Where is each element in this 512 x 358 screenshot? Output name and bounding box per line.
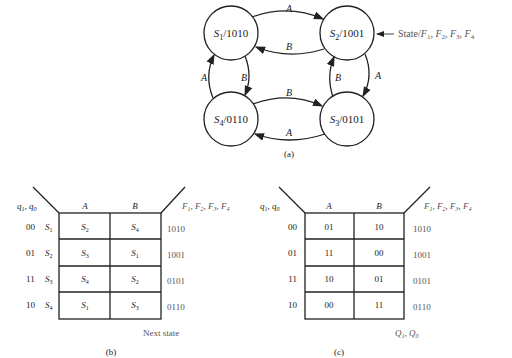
- table-c-row-header: q1, q0: [260, 201, 280, 212]
- transition-label: B: [241, 72, 247, 83]
- transition-label: A: [285, 3, 293, 14]
- transition-label: A: [285, 127, 293, 138]
- svg-text:S1: S1: [45, 222, 53, 233]
- table-row: 00 01 10 1010: [288, 222, 432, 234]
- state-annotation: State/F1, F2, F3, F4: [398, 28, 475, 41]
- table-c-output-header: F1, F2, F3, F4: [423, 201, 472, 212]
- svg-text:S4: S4: [131, 222, 139, 233]
- caption-a: (a): [284, 149, 294, 159]
- svg-text:01: 01: [288, 248, 297, 258]
- transition-label: B: [286, 41, 292, 52]
- table-b-footer: Next state: [143, 328, 179, 338]
- caption-c: (c): [334, 347, 344, 357]
- table-c-col-a: A: [325, 201, 332, 211]
- svg-text:11: 11: [325, 248, 334, 258]
- table-row: 11 10 01 0101: [288, 274, 431, 286]
- svg-text:10: 10: [288, 300, 298, 310]
- svg-text:01: 01: [375, 274, 384, 284]
- svg-text:00: 00: [375, 248, 385, 258]
- table-b-col-a: A: [81, 201, 88, 211]
- transition-label: A: [374, 70, 382, 81]
- svg-text:10: 10: [375, 222, 385, 232]
- svg-text:S1: S1: [81, 300, 89, 311]
- transition-s4-s1: [209, 55, 214, 98]
- svg-text:S3: S3: [131, 300, 139, 311]
- svg-text:1001: 1001: [167, 250, 185, 260]
- transition-s2-s3: [363, 54, 369, 96]
- table-b-output-header: F1, F2, F3, F4: [181, 201, 230, 212]
- table-c-footer: Q1, Q0: [395, 328, 419, 339]
- table-row: 10 00 11 0110: [288, 300, 431, 312]
- svg-text:11: 11: [288, 274, 297, 284]
- svg-text:01: 01: [325, 222, 334, 232]
- svg-text:1010: 1010: [413, 224, 432, 234]
- state-diagram: S1/1010 S2/1001 S4/0110 S3/0101 A B A B …: [200, 3, 475, 159]
- svg-text:1010: 1010: [167, 224, 186, 234]
- table-c-col-b: B: [376, 201, 382, 211]
- svg-text:S2: S2: [45, 248, 53, 259]
- transition-label: B: [335, 72, 341, 83]
- transition-s4-s3: [253, 98, 322, 106]
- svg-text:00: 00: [26, 222, 36, 232]
- svg-text:01: 01: [26, 248, 35, 258]
- transition-s3-s2: [330, 57, 334, 97]
- svg-text:0101: 0101: [413, 276, 431, 286]
- svg-text:S2: S2: [131, 274, 139, 285]
- transition-label: B: [286, 87, 292, 98]
- caption-b: (b): [106, 347, 117, 357]
- state-label-s4: S4/0110: [214, 113, 249, 128]
- state-label-s3: S3/0101: [330, 113, 365, 128]
- state-table-c: q1, q0 A B F1, F2, F3, F4 00 01 10 1010 …: [260, 187, 472, 357]
- state-table-b: q1, q0 A B F1, F2, F3, F4 00 S1 S2 S4 10…: [17, 187, 230, 357]
- table-b-row-header: q1, q0: [17, 201, 37, 212]
- svg-text:11: 11: [26, 274, 35, 284]
- svg-text:00: 00: [325, 300, 335, 310]
- state-label-s2: S2/1001: [330, 27, 365, 42]
- svg-text:S4: S4: [45, 300, 53, 311]
- svg-text:S4: S4: [81, 274, 89, 285]
- svg-text:S1: S1: [131, 248, 139, 259]
- svg-text:S3: S3: [45, 274, 53, 285]
- figure: S1/1010 S2/1001 S4/0110 S3/0101 A B A B …: [0, 0, 512, 358]
- svg-text:11: 11: [375, 300, 384, 310]
- svg-text:S2: S2: [81, 222, 89, 233]
- state-label-s1: S1/1010: [214, 27, 249, 42]
- svg-text:00: 00: [288, 222, 298, 232]
- svg-text:0101: 0101: [167, 276, 185, 286]
- svg-text:0110: 0110: [413, 302, 431, 312]
- transition-label: A: [200, 72, 208, 83]
- table-b-col-b: B: [132, 201, 138, 211]
- table-row: 01 11 00 1001: [288, 248, 431, 260]
- svg-text:10: 10: [26, 300, 36, 310]
- svg-text:S3: S3: [81, 248, 89, 259]
- svg-text:0110: 0110: [167, 302, 185, 312]
- svg-text:1001: 1001: [413, 250, 431, 260]
- svg-text:10: 10: [325, 274, 335, 284]
